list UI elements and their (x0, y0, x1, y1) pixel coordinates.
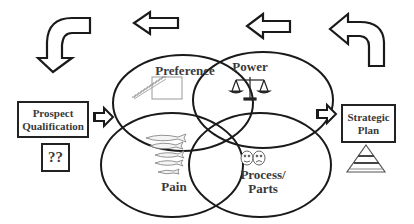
strategic-line2: Plan (358, 124, 379, 136)
prospect-line2: Qualification (22, 120, 84, 132)
process-label-line1: Process/ (228, 168, 298, 182)
curved-arrow-down-icon (38, 18, 90, 72)
curved-arrow-left-icon (330, 14, 384, 66)
process-label: Process/ Parts (228, 168, 298, 195)
staircase-icon (132, 77, 182, 99)
process-label-line2: Parts (228, 182, 298, 196)
pyramid-icon (347, 145, 385, 172)
scales-icon (230, 77, 270, 100)
fish-school-icon (146, 134, 186, 174)
strategic-plan-box: Strategic Plan (341, 104, 396, 143)
power-label: Power (225, 60, 275, 74)
prospect-qualification-box: Prospect Qualification (17, 101, 89, 138)
theater-masks-icon (241, 151, 265, 165)
strategic-line1: Strategic (347, 111, 389, 123)
left-arrow-icon (134, 12, 178, 34)
prospect-line1: Prospect (33, 107, 74, 119)
pain-label: Pain (150, 180, 198, 194)
question-box: ?? (41, 143, 70, 172)
right-arrow-icon (94, 108, 113, 126)
left-arrow-icon (247, 14, 290, 38)
preference-label: Preference (138, 64, 232, 78)
